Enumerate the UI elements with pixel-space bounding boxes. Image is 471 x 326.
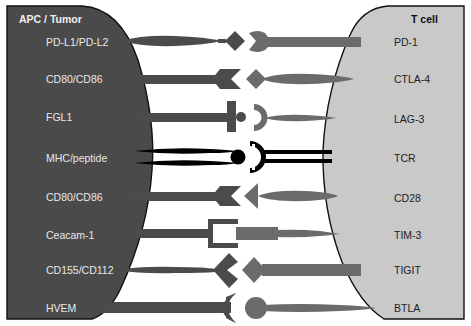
cd80-ligand-shape bbox=[127, 75, 225, 84]
ligand-label-mhc: MHC/peptide bbox=[46, 152, 107, 164]
tcr-strand-bottom bbox=[262, 159, 332, 163]
btla-receptor-shape bbox=[262, 304, 376, 312]
fgl1-ligand-shape bbox=[130, 113, 232, 122]
diamond-icon bbox=[225, 31, 245, 51]
arrowhead-icon bbox=[244, 183, 258, 209]
hvem-ligand-shape bbox=[99, 302, 231, 313]
pair-cd80-cd28 bbox=[125, 183, 338, 209]
receptor-label-btla: BTLA bbox=[394, 302, 420, 314]
receptor-label-ctla4: CTLA-4 bbox=[394, 73, 430, 85]
ligand-label-cd80-2: CD80/CD86 bbox=[46, 191, 103, 203]
pair-cd80-ctla4 bbox=[127, 69, 354, 89]
tigit-receptor-shape bbox=[262, 264, 361, 276]
tcr-strand-top bbox=[262, 150, 332, 154]
cd80-ligand-shape bbox=[125, 192, 225, 201]
receptor-label-tigit: TIGIT bbox=[394, 264, 421, 276]
receptor-label-tcr: TCR bbox=[394, 152, 416, 164]
apc-tumor-title: APC / Tumor bbox=[19, 13, 82, 25]
chevron-receptor-icon bbox=[212, 69, 241, 89]
pair-ceacam1-tim3 bbox=[129, 219, 340, 248]
ligand-label-hvem: HVEM bbox=[46, 302, 76, 314]
receptor-label-tim3: TIM-3 bbox=[394, 229, 421, 241]
cd155-ligand-shape bbox=[118, 267, 215, 273]
pair-fgl1-lag3 bbox=[130, 101, 336, 132]
pair-mhc-tcr bbox=[134, 141, 332, 173]
ligand-label-fgl1: FGL1 bbox=[46, 111, 72, 123]
receptor-label-lag3: LAG-3 bbox=[394, 113, 424, 125]
tim3-receptor-shape bbox=[276, 230, 340, 238]
ligand-label-pdl1: PD-L1/PD-L2 bbox=[46, 36, 108, 48]
pair-hvem-btla bbox=[99, 293, 376, 323]
ligand-receptor-diagram: APC / Tumor T cell PD-L1/PD-L2 CD80/CD86… bbox=[0, 0, 471, 326]
ceacam1-bracket-shape bbox=[208, 219, 238, 248]
ligand-label-cd155: CD155/CD112 bbox=[46, 264, 114, 276]
lag3-cup-shape bbox=[254, 104, 268, 131]
chevron-receptor-icon bbox=[213, 253, 238, 288]
ceacam1-ligand-shape bbox=[129, 229, 212, 238]
pair-pdl1-pd1 bbox=[122, 31, 361, 52]
receptor-label-cd28: CD28 bbox=[394, 192, 421, 204]
chevron-receptor-icon bbox=[212, 186, 241, 206]
pdl1-ligand-shape bbox=[122, 36, 222, 46]
t-cell-title: T cell bbox=[411, 13, 438, 25]
ligand-label-ceacam1: Ceacam-1 bbox=[46, 229, 94, 241]
ligand-label-cd80-1: CD80/CD86 bbox=[46, 73, 103, 85]
receptor-label-pd1: PD-1 bbox=[394, 36, 418, 48]
tim3-receptor-block bbox=[236, 227, 278, 240]
peptide-dot bbox=[231, 150, 246, 165]
pair-cd155-tigit bbox=[118, 253, 361, 288]
